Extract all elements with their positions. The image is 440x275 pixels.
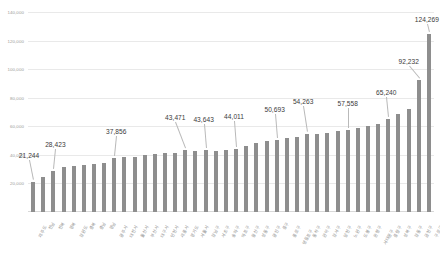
bar[interactable]: [244, 146, 248, 212]
bar-slot[interactable]: [180, 12, 190, 212]
bar[interactable]: [143, 155, 147, 212]
x-axis-tick-label: 서울시: [199, 225, 210, 238]
x-axis-tick-label: 울산시: [138, 225, 149, 238]
bar-slot[interactable]: [130, 12, 140, 212]
bar-slot[interactable]: [150, 12, 160, 212]
bar-slot[interactable]: [363, 12, 373, 212]
bar[interactable]: [325, 133, 329, 212]
bar[interactable]: [163, 153, 167, 212]
bar[interactable]: [41, 177, 45, 212]
bar[interactable]: [315, 134, 319, 212]
bar-slot[interactable]: [221, 12, 231, 212]
bar-slot[interactable]: [231, 12, 241, 212]
bar-slot[interactable]: [322, 12, 332, 212]
bar-value-label: 37,856: [106, 128, 126, 135]
bar-slot[interactable]: [58, 12, 68, 212]
bar[interactable]: [204, 150, 208, 212]
bar[interactable]: [336, 131, 340, 212]
bar-slot[interactable]: [333, 12, 343, 212]
bar-slot[interactable]: [292, 12, 302, 212]
bar[interactable]: [72, 166, 76, 212]
bar-slot[interactable]: [109, 12, 119, 212]
y-axis-tick-label: 20,000: [10, 181, 24, 186]
x-axis-tick-label: 강원도: [77, 225, 88, 238]
x-axis-tick-label: 동작구: [311, 225, 322, 238]
bar-value-label: 28,423: [45, 141, 65, 148]
x-axis-tick-label: 양천구: [341, 225, 352, 238]
bar-slot[interactable]: [190, 12, 200, 212]
bar-value-label: 21,244: [19, 152, 39, 159]
x-axis-tick-label: 강동구: [412, 225, 423, 238]
bar-slot[interactable]: [241, 12, 251, 212]
bar-slot[interactable]: [99, 12, 109, 212]
x-axis-category-labels: 제주도전남전북경북강원도충북충남경남광주시대전시울산시부산시대구시인천시세종시경…: [28, 214, 434, 275]
bar-slot[interactable]: [201, 12, 211, 212]
x-axis-tick-label: 대전시: [128, 225, 139, 238]
x-axis-tick-label: 용산구: [250, 225, 261, 238]
bar[interactable]: [427, 34, 431, 212]
x-axis-tick-label: 경북: [67, 221, 76, 231]
x-axis-tick-label: 부산시: [148, 225, 159, 238]
x-axis-tick-label: 노원구: [351, 225, 362, 238]
bar-chart: 20,00040,00060,00080,000100,000120,00014…: [0, 0, 440, 275]
bar[interactable]: [295, 137, 299, 212]
bar[interactable]: [122, 157, 126, 212]
bar[interactable]: [356, 128, 360, 212]
bar-slot[interactable]: [404, 12, 414, 212]
bar-slot[interactable]: [211, 12, 221, 212]
bar[interactable]: [346, 130, 350, 212]
bar[interactable]: [396, 114, 400, 212]
bar[interactable]: [305, 134, 309, 212]
bar-slot[interactable]: [312, 12, 322, 212]
bar[interactable]: [133, 157, 137, 212]
bar[interactable]: [254, 143, 258, 212]
bar[interactable]: [62, 167, 66, 212]
bar[interactable]: [275, 140, 279, 212]
y-axis-tick-label: 80,000: [10, 95, 24, 100]
bar-slot[interactable]: [414, 12, 424, 212]
bar-slot[interactable]: [160, 12, 170, 212]
bar[interactable]: [285, 138, 289, 212]
bar[interactable]: [265, 141, 269, 212]
bar[interactable]: [214, 151, 218, 212]
bar-slot[interactable]: [69, 12, 79, 212]
bar[interactable]: [173, 153, 177, 212]
x-axis-tick-label: 성북구: [402, 225, 413, 238]
x-axis-tick-label: 종로구: [291, 225, 302, 238]
bar[interactable]: [417, 80, 421, 212]
bar-slot[interactable]: [353, 12, 363, 212]
bar-slot[interactable]: [393, 12, 403, 212]
bar-slot[interactable]: [251, 12, 261, 212]
bar[interactable]: [92, 164, 96, 212]
bar[interactable]: [386, 119, 390, 212]
bar[interactable]: [51, 171, 55, 212]
bar-slot[interactable]: [140, 12, 150, 212]
bar[interactable]: [366, 126, 370, 212]
x-axis-tick-label: 서초구: [219, 225, 230, 238]
bar[interactable]: [376, 124, 380, 212]
bar-slot[interactable]: [373, 12, 383, 212]
bar[interactable]: [193, 151, 197, 212]
bar[interactable]: [234, 149, 238, 212]
bar[interactable]: [183, 150, 187, 212]
bar[interactable]: [31, 182, 35, 212]
bar[interactable]: [102, 163, 106, 212]
bar[interactable]: [153, 154, 157, 212]
bar[interactable]: [224, 150, 228, 212]
bar-slot[interactable]: [79, 12, 89, 212]
bar[interactable]: [112, 158, 116, 212]
bar[interactable]: [82, 165, 86, 212]
bar-slot[interactable]: [424, 12, 434, 212]
x-axis-tick-label: 송파구: [230, 225, 241, 238]
bar-slot[interactable]: [119, 12, 129, 212]
bar[interactable]: [407, 109, 411, 212]
bar-value-label: 43,471: [165, 114, 185, 121]
bar-slot[interactable]: [170, 12, 180, 212]
x-axis-tick-label: 도봉구: [362, 225, 373, 238]
bar-slot[interactable]: [38, 12, 48, 212]
bar-slot[interactable]: [48, 12, 58, 212]
x-axis-tick-label: 광주시: [118, 225, 129, 238]
x-axis-tick-label: 강서구: [331, 225, 342, 238]
bar-slot[interactable]: [28, 12, 38, 212]
bar-slot[interactable]: [89, 12, 99, 212]
